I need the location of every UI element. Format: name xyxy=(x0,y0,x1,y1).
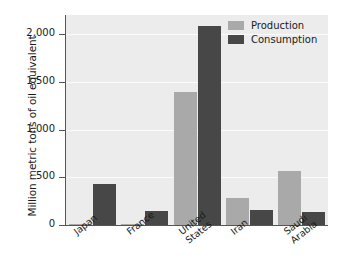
legend-item: Consumption xyxy=(228,32,317,46)
bar-production xyxy=(174,92,197,225)
bar-chart-figure: Million metric tons of oil equivalent 05… xyxy=(0,0,347,273)
y-axis-tick-label: 1,500 xyxy=(0,75,55,86)
legend-swatch xyxy=(228,35,244,44)
y-axis-line xyxy=(65,15,66,226)
legend-label: Production xyxy=(251,20,304,31)
legend-swatch xyxy=(228,21,244,30)
y-axis-tick-label: 1,000 xyxy=(0,123,55,134)
legend-label: Consumption xyxy=(251,34,317,45)
y-axis-tick-label: 0 xyxy=(0,218,55,229)
y-axis-tick-label: 500 xyxy=(0,170,55,181)
plot-area xyxy=(66,15,328,225)
y-axis-tick-label: 2,000 xyxy=(0,27,55,38)
chart-legend: ProductionConsumption xyxy=(228,18,317,46)
legend-item: Production xyxy=(228,18,317,32)
bar-consumption xyxy=(198,26,221,225)
bar-consumption xyxy=(250,210,273,225)
